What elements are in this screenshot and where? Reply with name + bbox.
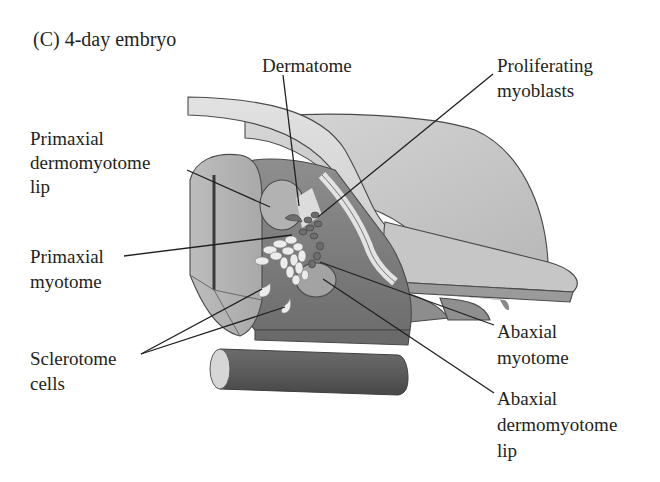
- label-abaxial-dermomyotome-lip: Abaxial dermomyotome lip: [497, 388, 622, 461]
- embryo-somite-diagram: (C) 4-day embryo Dermatome Proliferating…: [0, 0, 660, 482]
- label-primaxial-dermomyotome-lip: Primaxial dermomyotome lip: [30, 128, 155, 197]
- label-dermatome: Dermatome: [262, 55, 352, 76]
- label-sclerotome-cells: Sclerotome cells: [30, 348, 121, 394]
- label-abaxial-myotome: Abaxial myotome: [497, 321, 569, 368]
- label-proliferating-myoblasts: Proliferating myoblasts: [497, 55, 598, 101]
- notochord: [210, 349, 408, 395]
- panel-title: (C) 4-day embryo: [33, 28, 176, 51]
- label-primaxial-myotome: Primaxial myotome: [30, 246, 109, 292]
